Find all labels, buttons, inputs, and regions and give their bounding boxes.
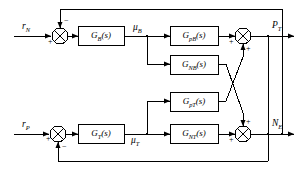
sign-sum-PT-plus-bottom: + xyxy=(246,45,251,53)
line-GNB-cross-down xyxy=(226,64,243,113)
signal-label-muT: μT xyxy=(131,136,139,147)
block-label-GB: GB(s) xyxy=(78,31,124,42)
sign-sum-rP-minus: − xyxy=(62,143,67,151)
input-label-rP: rP xyxy=(22,120,30,131)
output-label-PT: PT xyxy=(272,21,281,32)
block-label-GNT: GNT(s) xyxy=(170,129,218,140)
sign-sum-rN-plus: + xyxy=(48,38,53,46)
output-label-NE: NE xyxy=(272,119,282,130)
signal-label-muB: μB xyxy=(133,23,142,34)
diagram-lines xyxy=(0,0,302,170)
block-diagram-canvas: GB(s) GT(s) GpB(s) GNB(s) GpT(s) GNT(s) … xyxy=(0,0,302,170)
input-label-rN: rN xyxy=(22,22,30,33)
node-muT xyxy=(146,133,149,136)
sign-sum-PT-plus-left: + xyxy=(229,38,234,46)
sign-sum-NE-plus-left: + xyxy=(229,136,234,144)
block-label-GT: GT(s) xyxy=(78,129,124,140)
sign-sum-NE-plus-top: + xyxy=(246,118,251,126)
block-label-GpT: GpT(s) xyxy=(170,97,218,108)
node-NE-fb xyxy=(281,133,284,136)
line-GpT-cross-up xyxy=(226,57,243,101)
sign-sum-rP-plus: + xyxy=(46,135,51,143)
block-label-GNB: GNB(s) xyxy=(170,60,218,71)
sign-sum-rN-minus: − xyxy=(64,17,69,25)
node-muB xyxy=(146,35,149,38)
block-label-GpB: GpB(s) xyxy=(170,31,218,42)
